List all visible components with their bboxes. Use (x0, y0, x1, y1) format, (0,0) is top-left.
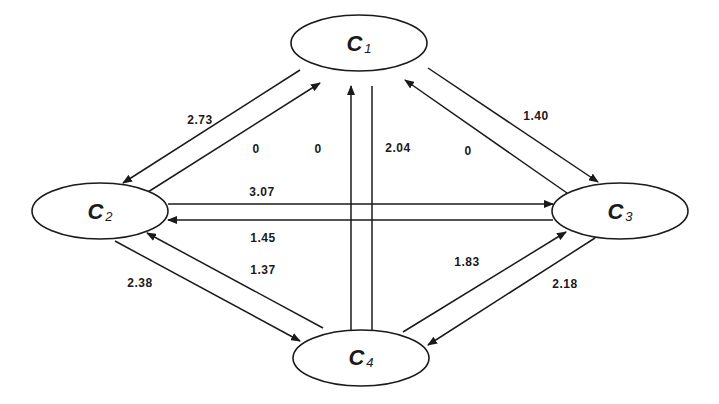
node-subscript: 4 (366, 355, 373, 370)
edge-weight-c3-to-c1: 0 (464, 145, 471, 157)
edge-arrow-c4-to-c2 (147, 233, 323, 328)
node-letter: C (607, 199, 623, 224)
node-subscript: 1 (364, 41, 371, 56)
edge-arrow-c3-to-c4 (428, 238, 595, 345)
edge-weight-c2-to-c1: 0 (252, 143, 259, 155)
edge-weight-c3-to-c4: 2.18 (552, 278, 577, 290)
edge-arrow-c3-to-c1 (405, 80, 567, 193)
node-letter: C (87, 199, 103, 224)
edge-arrow-c4-to-c3 (403, 232, 566, 332)
edge-arrow-c2-to-c4 (115, 241, 300, 341)
node-letter: C (348, 345, 364, 370)
edge-weight-c4-to-c2: 1.37 (250, 264, 275, 276)
node-label-c2: C2 (87, 201, 112, 223)
node-letter: C (346, 31, 362, 56)
node-subscript: 2 (105, 209, 112, 224)
edge-weight-c1-to-c3: 1.40 (523, 110, 548, 122)
edge-weight-c2-to-c4: 2.38 (127, 277, 152, 289)
nodes-layer (32, 15, 688, 386)
edge-weight-c1-to-c4: 2.04 (385, 142, 410, 154)
node-label-c3: C3 (607, 201, 632, 223)
node-label-c4: C4 (348, 347, 373, 369)
node-subscript: 3 (625, 209, 632, 224)
edge-arrow-c1-to-c3 (428, 68, 598, 182)
edge-weight-c1-to-c2: 2.73 (187, 114, 212, 126)
edge-arrow-c2-to-c1 (148, 83, 320, 192)
edge-weight-c4-to-c1: 0 (314, 143, 321, 155)
edge-weight-c4-to-c3: 1.83 (454, 256, 479, 268)
node-label-c1: C1 (346, 33, 371, 55)
edge-weight-c3-to-c2: 1.45 (250, 232, 275, 244)
edge-weight-c2-to-c3: 3.07 (249, 186, 274, 198)
